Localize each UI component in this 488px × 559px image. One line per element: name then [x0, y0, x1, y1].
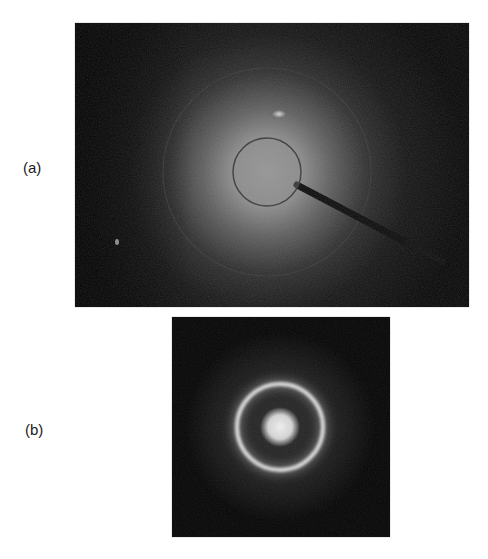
panel-a-pattern	[75, 23, 469, 307]
panel-b-diffraction-image	[172, 317, 390, 537]
panel-a-label: (a)	[23, 159, 41, 176]
panel-b-label: (b)	[25, 421, 43, 438]
panel-a-diffraction-image	[75, 23, 469, 307]
panel-b-pattern	[172, 317, 390, 537]
